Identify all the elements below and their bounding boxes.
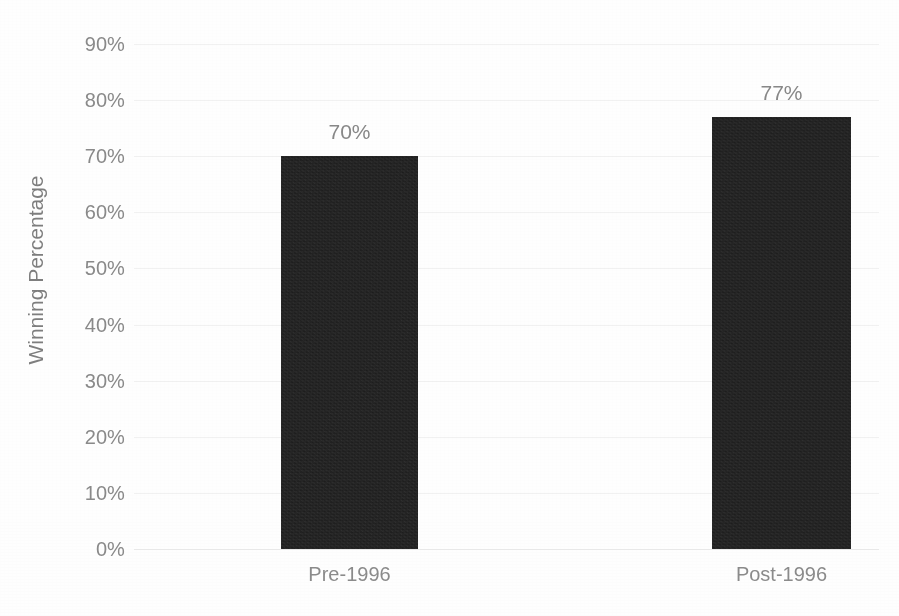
y-axis-tick-label: 20% bbox=[55, 425, 125, 448]
y-axis-tick-label: 10% bbox=[55, 481, 125, 504]
bar-chart-figure: Winning Percentage 90%80%70%60%50%40%30%… bbox=[0, 0, 899, 616]
y-axis-tick-label: 50% bbox=[55, 257, 125, 280]
y-axis-tick-label: 60% bbox=[55, 201, 125, 224]
bar-value-label: 77% bbox=[712, 81, 851, 105]
y-axis-tick-label: 80% bbox=[55, 89, 125, 112]
y-axis-tick-label: 90% bbox=[55, 33, 125, 56]
y-axis-tick-label: 30% bbox=[55, 369, 125, 392]
gridline bbox=[134, 549, 879, 550]
bar-value-label: 70% bbox=[281, 120, 418, 144]
y-axis-tick-label: 40% bbox=[55, 313, 125, 336]
gridline bbox=[134, 44, 879, 45]
plot-area: 70%77% bbox=[134, 44, 879, 549]
y-axis-title: Winning Percentage bbox=[24, 130, 48, 410]
y-axis-tick-label: 0% bbox=[55, 538, 125, 561]
bar[interactable] bbox=[712, 117, 851, 549]
x-axis-category-label: Post-1996 bbox=[672, 563, 891, 586]
y-axis-tick-labels: 90%80%70%60%50%40%30%20%10%0% bbox=[55, 44, 125, 549]
y-axis-tick-label: 70% bbox=[55, 145, 125, 168]
bar[interactable] bbox=[281, 156, 418, 549]
x-axis-category-label: Pre-1996 bbox=[241, 563, 458, 586]
